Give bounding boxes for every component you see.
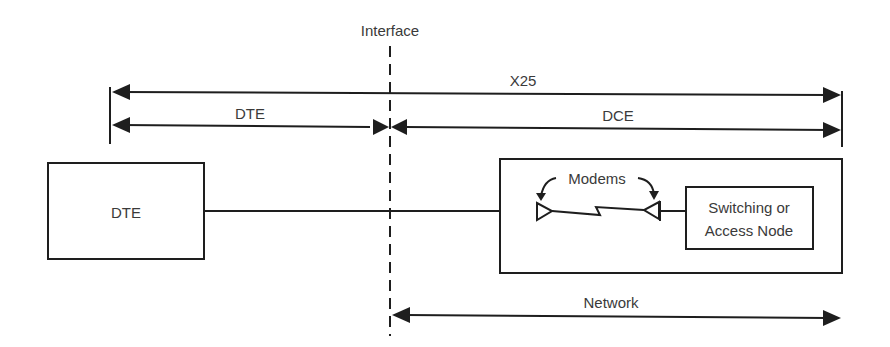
arrowhead-left-icon <box>391 119 407 135</box>
arrowhead-right-icon <box>823 122 841 138</box>
network-box <box>500 159 842 273</box>
dte-span-label: DTE <box>235 105 265 122</box>
arrowhead-down-icon <box>649 191 659 200</box>
network-label: Network <box>583 294 639 311</box>
dce-span-label: DCE <box>602 107 634 124</box>
switching-node-label-line2: Access Node <box>705 222 793 239</box>
dte-box-label: DTE <box>111 204 141 221</box>
x25-label: X25 <box>510 72 537 89</box>
arrowhead-left-icon <box>112 117 130 133</box>
x25-span-arrow <box>112 84 841 103</box>
arrowhead-down-icon <box>536 193 546 201</box>
x25-diagram: Interface X25 DTE DCE DTE Modems <box>0 0 890 347</box>
arrowhead-right-icon <box>823 87 841 103</box>
modem-right-icon <box>644 202 659 219</box>
arrowhead-right-icon <box>373 119 389 135</box>
modems-label: Modems <box>568 170 626 187</box>
switching-node-label-line1: Switching or <box>708 199 790 216</box>
arrowhead-right-icon <box>823 310 841 326</box>
interface-label: Interface <box>361 22 419 39</box>
modem-left-icon <box>537 203 552 220</box>
arrowhead-left-icon <box>392 307 410 323</box>
arrowhead-left-icon <box>112 84 130 100</box>
lightning-link-icon <box>552 207 644 215</box>
switching-node-box <box>686 187 813 249</box>
